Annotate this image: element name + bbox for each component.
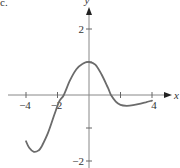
x-axis-label: x	[173, 89, 179, 101]
x-tick-label: −4	[19, 99, 31, 111]
axes: xy	[8, 0, 179, 168]
y-axis-arrow-icon	[86, 7, 92, 15]
x-axis-arrow-icon	[164, 92, 172, 98]
y-tick-label: −2	[72, 155, 84, 167]
y-axis-label: y	[84, 0, 90, 6]
y-tick-label: 2	[79, 23, 85, 35]
function-graph: xy −4−24−22	[0, 0, 180, 168]
